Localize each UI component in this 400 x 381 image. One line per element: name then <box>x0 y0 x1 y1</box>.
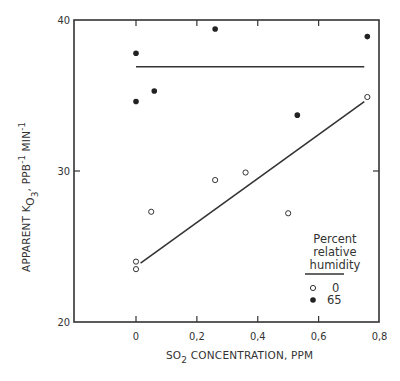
open-circle-point <box>286 211 291 216</box>
legend-title-line-3: humidity <box>310 258 361 272</box>
open-circle-point <box>365 94 370 99</box>
filled-circle-point <box>133 50 139 56</box>
filled-circle-point <box>212 26 218 32</box>
plot-border <box>74 20 379 322</box>
filled-circle-point <box>151 88 157 94</box>
y-tick-labels: 203040 <box>57 14 70 329</box>
x-tick-labels: 00,20,40,60,8 <box>133 330 388 343</box>
legend-label-65: 65 <box>327 293 342 307</box>
open-circle-point <box>133 267 138 272</box>
filled-circle-point <box>365 34 371 40</box>
y-tick-label: 30 <box>57 165 70 178</box>
y-tick-label: 40 <box>57 14 70 27</box>
x-tick-label: 0,6 <box>311 330 327 343</box>
y-tick-label: 20 <box>57 316 70 329</box>
legend-title-line-1: Percent <box>313 232 357 246</box>
open-circle-point <box>243 170 248 175</box>
scatter-chart: 00,20,40,60,8 203040 SO2 CONCENTRATION, … <box>0 0 400 381</box>
x-tick-label: 0,2 <box>189 330 205 343</box>
y-axis-label: APPARENT KO3, PPB-1 MIN-1 <box>17 122 40 272</box>
open-circle-point <box>133 259 138 264</box>
legend-title-line-2: relative <box>313 245 356 259</box>
legend: Percent relative humidity 0 65 <box>305 232 361 307</box>
open-circle-point <box>149 209 154 214</box>
filled-circle-icon <box>310 297 316 303</box>
open-circle-point <box>213 177 218 182</box>
axis-ticks <box>74 20 379 322</box>
filled-circle-point <box>295 112 301 118</box>
x-tick-label: 0 <box>133 330 139 343</box>
x-tick-label: 0,4 <box>250 330 266 343</box>
open-circle-icon <box>310 285 315 290</box>
filled-circle-point <box>133 99 139 105</box>
x-axis-label: SO2 CONCENTRATION, PPM <box>166 349 313 365</box>
x-tick-label: 0,8 <box>372 330 388 343</box>
plot-frame <box>74 20 379 322</box>
